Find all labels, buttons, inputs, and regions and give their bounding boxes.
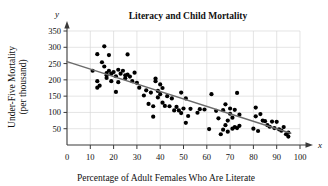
scatter-point: [151, 115, 155, 119]
scatter-point: [223, 123, 227, 127]
scatter-point: [186, 114, 190, 118]
x-tick-label-60: 60: [203, 152, 212, 162]
y-tick-label-300: 300: [48, 42, 61, 52]
scatter-point: [223, 102, 227, 106]
scatter-point: [151, 104, 155, 108]
scatter-point: [102, 64, 106, 68]
scatter-point: [105, 76, 109, 80]
x-axis-variable-label: x: [317, 140, 322, 150]
scatter-point: [282, 125, 286, 129]
scatter-point: [174, 105, 178, 109]
scatter-point: [254, 105, 258, 109]
scatter-point: [275, 120, 279, 124]
y-tick-label-50: 50: [53, 124, 62, 134]
scatter-point: [109, 79, 113, 83]
scatter-point: [226, 118, 230, 122]
scatter-point: [195, 111, 199, 115]
scatter-point: [112, 70, 116, 74]
scatter-point: [228, 106, 232, 110]
scatter-point: [219, 132, 223, 136]
x-tick-label-30: 30: [133, 152, 142, 162]
scatter-point: [170, 96, 174, 100]
y-tick-label-200: 200: [48, 75, 61, 85]
scatter-point: [254, 114, 258, 118]
scatter-point: [116, 68, 120, 72]
scatter-point: [263, 119, 267, 123]
x-tick-label-40: 40: [156, 152, 165, 162]
scatter-point: [142, 93, 146, 97]
scatter-point: [202, 107, 206, 111]
y-tick-label-150: 150: [48, 91, 61, 101]
y-tick-label-250: 250: [48, 59, 61, 69]
y-tick-label-350: 350: [48, 26, 61, 36]
scatter-point: [114, 90, 118, 94]
scatter-point: [132, 71, 136, 75]
scatter-point: [153, 79, 157, 83]
scatter-point: [270, 119, 274, 123]
scatter-point: [128, 75, 132, 79]
y-axis-variable-label: y: [54, 9, 59, 19]
scatter-point: [216, 116, 220, 120]
scatter-point: [149, 90, 153, 94]
scatter-point: [235, 91, 239, 95]
scatter-point: [144, 88, 148, 92]
scatter-point: [137, 86, 141, 90]
scatter-point: [221, 128, 225, 132]
x-axis-title: Percentage of Adult Females Who Are Lite…: [77, 173, 255, 183]
x-tick-label-10: 10: [86, 152, 95, 162]
scatter-point: [160, 86, 164, 90]
x-tick-label-0: 0: [65, 152, 69, 162]
scatter-point: [179, 90, 183, 94]
scatter-point: [251, 127, 255, 131]
scatter-point: [116, 80, 120, 84]
x-tick-label-70: 70: [226, 152, 235, 162]
scatter-point: [121, 69, 125, 73]
y-tick-label-100: 100: [48, 107, 61, 117]
scatter-point: [158, 82, 162, 86]
scatter-point: [233, 108, 237, 112]
scatter-point: [184, 121, 188, 125]
scatter-point: [179, 111, 183, 115]
y-axis-title-line2: (per thousand): [18, 59, 29, 114]
scatter-point: [95, 52, 99, 56]
scatter-point: [95, 79, 99, 83]
scatter-point: [198, 107, 202, 111]
scatter-point: [237, 124, 241, 128]
scatter-point: [125, 52, 129, 56]
y-axis-title-line1: Under-Five Mortality: [7, 46, 17, 128]
chart-figure: 50100150200250300350 0102030405060708090…: [0, 0, 328, 186]
scatter-point: [163, 104, 167, 108]
scatter-point: [207, 127, 211, 131]
scatter-point: [209, 92, 213, 96]
scatter-point: [146, 102, 150, 106]
scatter-point: [286, 134, 290, 138]
scatter-point: [98, 84, 102, 88]
scatter-point: [188, 107, 192, 111]
scatter-point: [256, 129, 260, 133]
chart-title: Literacy and Child Mortality: [129, 11, 248, 21]
x-tick-label-20: 20: [109, 152, 118, 162]
scatter-point: [172, 108, 176, 112]
scatter-point: [181, 106, 185, 110]
literacy-child-mortality-scatter-plot: 50100150200250300350 0102030405060708090…: [0, 0, 328, 186]
scatter-point: [226, 130, 230, 134]
scatter-point: [258, 112, 262, 116]
x-tick-label-100: 100: [294, 152, 307, 162]
scatter-point: [102, 44, 106, 48]
x-tick-label-50: 50: [179, 152, 188, 162]
scatter-point: [230, 116, 234, 120]
scatter-point: [167, 104, 171, 108]
scatter-point: [107, 53, 111, 57]
x-tick-label-80: 80: [249, 152, 258, 162]
x-tick-label-90: 90: [272, 152, 281, 162]
scatter-point: [100, 60, 104, 64]
